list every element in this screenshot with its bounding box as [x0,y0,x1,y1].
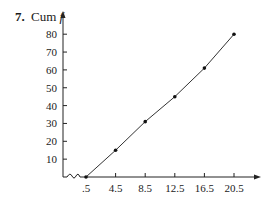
axes [61,11,262,180]
y-axis-arrow-icon [61,11,66,18]
data-point-marker [203,66,207,70]
x-axis-arrow-icon [254,175,261,180]
x-axis-ticks: .54.58.512.516.520.5 [82,173,244,194]
x-tick-label: 8.5 [138,182,152,194]
data-point-marker [143,120,147,124]
y-axis-ticks: 1020304050607080 [46,28,67,165]
data-point-marker [84,175,88,179]
y-tick-label: 80 [46,28,58,40]
axis-break-icon [67,174,80,178]
y-tick-label: 30 [46,117,58,129]
ogive-line [86,34,234,177]
ogive-chart: 1020304050607080 .54.58.512.516.520.5 [0,0,267,199]
x-tick-label: 20.5 [224,182,244,194]
y-tick-label: 50 [46,82,58,94]
x-tick-label: 4.5 [109,182,123,194]
x-tick-label: 16.5 [195,182,215,194]
y-tick-label: 40 [46,100,58,112]
y-tick-label: 70 [46,46,58,58]
data-point-marker [232,32,236,36]
x-tick-label: .5 [82,182,91,194]
y-tick-label: 10 [46,153,58,165]
y-tick-label: 60 [46,64,58,76]
y-tick-label: 20 [46,135,58,147]
data-series [84,32,236,178]
data-point-marker [114,148,118,152]
data-point-marker [173,95,177,99]
x-tick-label: 12.5 [165,182,185,194]
